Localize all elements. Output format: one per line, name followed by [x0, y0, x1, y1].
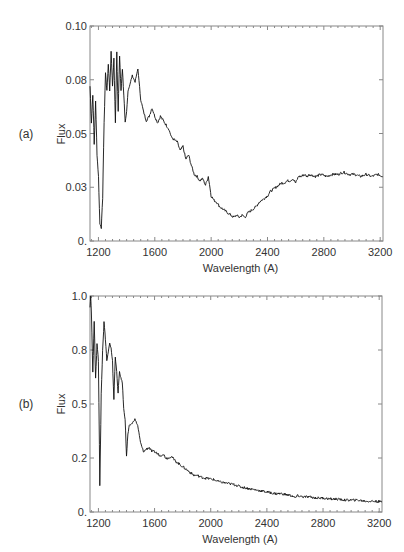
x-tick-label: 2400 [255, 246, 279, 258]
y-tick-label: 0.5 [72, 398, 87, 410]
chart-panel-a: 1200160020002400280032000.0.030.050.080.… [0, 0, 404, 276]
y-tick-label: 0. [78, 506, 87, 518]
x-tick-label: 2800 [311, 517, 335, 529]
x-tick-label: 3200 [367, 517, 391, 529]
x-tick-label: 2000 [198, 517, 222, 529]
y-tick-label: 0.05 [66, 128, 87, 140]
spectrum-line [90, 296, 382, 503]
y-tick-label: 0.2 [72, 452, 87, 464]
x-tick-label: 1200 [86, 517, 110, 529]
spectrum-chart-a: 1200160020002400280032000.0.030.050.080.… [0, 0, 404, 276]
plot-frame [90, 296, 382, 512]
spectrum-line [90, 51, 383, 228]
x-tick-label: 2400 [255, 517, 279, 529]
y-axis-title: Flux [55, 123, 67, 144]
chart-panel-b: 1200160020002400280032000.0.20.50.81.0Wa… [0, 276, 404, 552]
panel-label: (b) [19, 397, 34, 411]
x-tick-label: 1200 [86, 246, 110, 258]
y-tick-label: 1.0 [72, 290, 87, 302]
y-axis-title: Flux [55, 393, 67, 414]
y-tick-label: 0.03 [66, 181, 87, 193]
y-tick-label: 0.8 [72, 344, 87, 356]
x-tick-label: 1600 [142, 517, 166, 529]
y-tick-label: 0. [78, 235, 87, 247]
x-tick-label: 3200 [368, 246, 392, 258]
x-axis-title: Wavelength (A) [203, 262, 278, 274]
y-tick-label: 0.10 [66, 20, 87, 32]
x-tick-label: 1600 [143, 246, 167, 258]
panel-label: (a) [19, 127, 34, 141]
x-tick-label: 2800 [312, 246, 336, 258]
plot-frame [90, 26, 383, 241]
x-axis-title: Wavelength (A) [202, 533, 277, 545]
spectrum-chart-b: 1200160020002400280032000.0.20.50.81.0Wa… [0, 276, 404, 552]
y-tick-label: 0.08 [66, 74, 87, 86]
x-tick-label: 2000 [199, 246, 223, 258]
